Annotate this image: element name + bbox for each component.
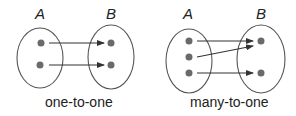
set-b-ellipse [88,25,134,89]
set-b-ellipse [237,25,285,93]
set-a-label: A [34,5,45,22]
codomain-element-dot [108,62,115,69]
one-to-one-caption: one-to-one [45,94,113,110]
domain-element-dot [186,38,193,45]
set-a-ellipse [17,28,63,88]
many-to-one-caption: many-to-one [190,94,269,110]
one-to-one-diagram: A B one-to-one [17,5,134,110]
set-a-label: A [182,5,193,22]
function-mapping-diagrams: A B one-to-one A B many-to-one [0,0,296,116]
many-to-one-diagram: A B many-to-one [166,5,285,110]
domain-element-dot [37,62,44,69]
domain-element-dot [186,54,193,61]
codomain-element-dot [258,70,265,77]
domain-element-dot [186,70,193,77]
domain-element-dot [38,40,45,47]
mapping-arrow-icon [197,46,253,57]
codomain-element-dot [258,38,265,45]
codomain-element-dot [108,40,115,47]
set-b-label: B [106,5,116,22]
set-b-label: B [256,5,266,22]
